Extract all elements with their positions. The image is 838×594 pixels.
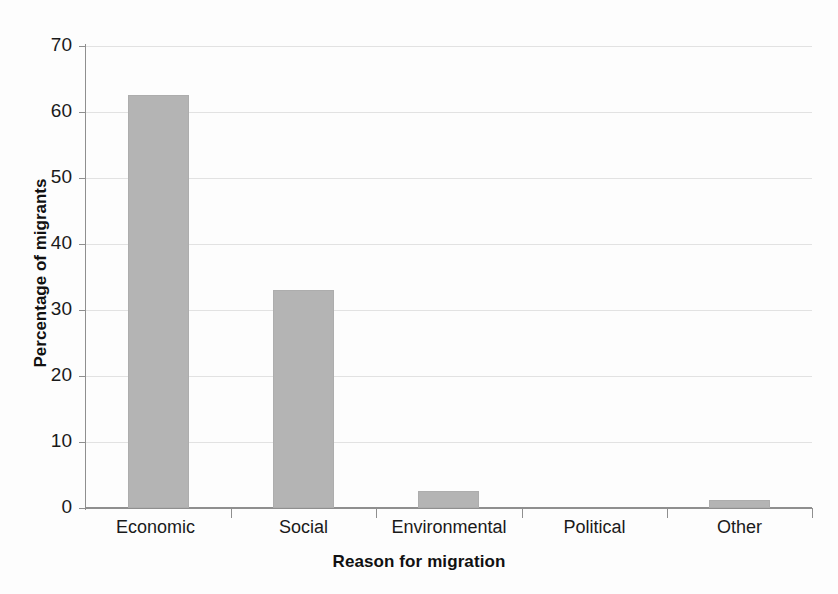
y-tick-label-0: 0 — [32, 497, 72, 516]
x-tick-boundary-3 — [522, 509, 523, 518]
y-axis-title: Percentage of migrants — [31, 143, 51, 403]
y-tick-70 — [79, 46, 86, 47]
x-tick-label-economic: Economic — [83, 518, 228, 538]
bar-economic — [128, 95, 189, 508]
bar-social — [273, 290, 334, 508]
gridline-30 — [86, 310, 812, 311]
x-tick-label-environmental: Environmental — [376, 518, 522, 538]
x-tick-boundary-2 — [376, 509, 377, 518]
x-tick-boundary-1 — [231, 509, 232, 518]
y-tick-0 — [79, 508, 86, 509]
y-tick-label-10: 10 — [32, 431, 72, 450]
x-tick-label-other: Other — [667, 518, 812, 538]
gridline-20 — [86, 376, 812, 377]
gridline-60 — [86, 112, 812, 113]
y-tick-50 — [79, 178, 86, 179]
x-axis-line — [86, 508, 813, 509]
gridline-10 — [86, 442, 812, 443]
x-tick-boundary-5 — [812, 509, 813, 518]
gridline-70 — [86, 46, 812, 47]
y-tick-label-60: 60 — [32, 101, 72, 120]
x-axis-title: Reason for migration — [0, 552, 838, 572]
bar-environmental — [418, 491, 479, 508]
y-tick-label-70: 70 — [32, 35, 72, 54]
gridline-50 — [86, 178, 812, 179]
x-tick-boundary-4 — [667, 509, 668, 518]
bar-other — [709, 500, 770, 508]
plot-area — [86, 46, 812, 508]
y-tick-40 — [79, 244, 86, 245]
bar-chart: 70 60 50 40 30 20 10 0 Economic Social E… — [0, 0, 838, 594]
y-tick-30 — [79, 310, 86, 311]
gridline-40 — [86, 244, 812, 245]
x-tick-label-political: Political — [522, 518, 667, 538]
x-tick-label-social: Social — [231, 518, 376, 538]
y-tick-60 — [79, 112, 86, 113]
y-tick-10 — [79, 442, 86, 443]
y-tick-20 — [79, 376, 86, 377]
y-axis-line — [85, 44, 86, 510]
